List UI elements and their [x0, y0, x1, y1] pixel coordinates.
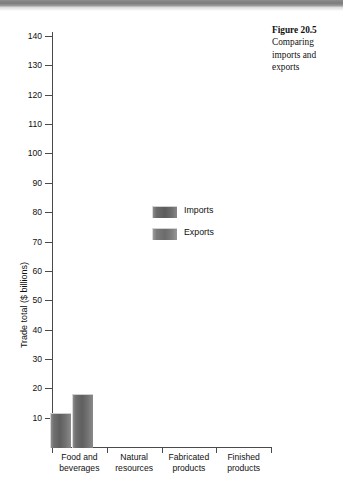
- legend-label-imports: Imports: [184, 205, 213, 215]
- legend-label-exports: Exports: [184, 227, 214, 237]
- legend-swatch-exports: [152, 228, 177, 240]
- bars-layer: [0, 0, 343, 447]
- bar-exports: [72, 394, 93, 448]
- x-separator: [271, 447, 272, 453]
- figure-page: Figure 20.5 Comparing imports and export…: [0, 0, 343, 500]
- x-axis-label: Fabricated products: [162, 452, 217, 473]
- x-axis-label: Finished products: [216, 452, 271, 473]
- bar-chart: Trade total ($ billions) 102030405060708…: [0, 0, 343, 500]
- x-axis-label: Food and beverages: [52, 452, 107, 473]
- legend-swatch-imports: [152, 206, 177, 218]
- x-axis-label: Natural resources: [107, 452, 162, 473]
- bar-imports: [50, 413, 71, 448]
